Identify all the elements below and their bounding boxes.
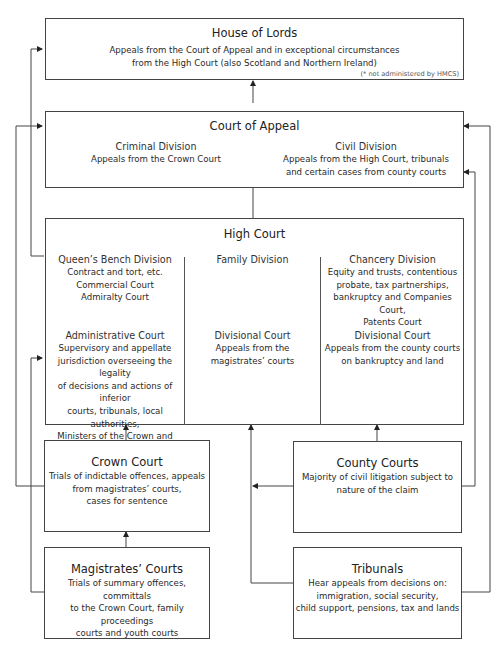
administrative-court-title: Administrative Court	[46, 329, 184, 342]
civil-division-desc-2: and certain cases from county courts	[276, 166, 456, 179]
high-court-title: High Court	[46, 227, 463, 242]
high-court-box: High Court Queen’s Bench Division Contra…	[45, 218, 464, 425]
chancery-division-title: Chancery Division	[321, 253, 464, 266]
administrative-desc-4: courts, tribunals, local authorities,	[46, 405, 184, 430]
chancery-division: Chancery Division Equity and trusts, con…	[321, 253, 464, 329]
family-divisional-court: Divisional Court Appeals from the magist…	[185, 329, 320, 367]
civil-division-desc-1: Appeals from the High Court, tribunals	[276, 153, 456, 166]
court-of-appeal-title: Court of Appeal	[46, 119, 463, 134]
queens-bench-division: Queen’s Bench Division Contract and tort…	[46, 253, 184, 304]
hmcs-note: (* not administered by HMCS)	[360, 70, 459, 78]
queens-bench-desc-1: Contract and tort, etc.	[46, 266, 184, 279]
family-divisional-title: Divisional Court	[185, 329, 320, 342]
criminal-division: Criminal Division Appeals from the Crown…	[56, 140, 256, 166]
tribunals-desc-1: Hear appeals from decisions on:	[294, 577, 461, 590]
family-division: Family Division	[185, 253, 320, 266]
house-of-lords-desc-1: Appeals from the Court of Appeal and in …	[46, 44, 463, 57]
family-divisional-desc-1: Appeals from the	[185, 342, 320, 355]
chancery-desc-3: bankruptcy and Companies Court,	[321, 291, 464, 316]
chancery-desc-2: probate, tax partnerships,	[321, 279, 464, 292]
family-divisional-desc-2: magistrates’ courts	[185, 355, 320, 368]
house-of-lords-desc-2: from the High Court (also Scotland and N…	[46, 57, 463, 70]
magistrates-desc-3: courts and youth courts	[45, 627, 209, 640]
county-courts-box: County Courts Majority of civil litigati…	[293, 441, 462, 533]
chancery-divisional-title: Divisional Court	[321, 329, 464, 342]
chancery-divisional-court: Divisional Court Appeals from the county…	[321, 329, 464, 367]
magistrates-courts-title: Magistrates’ Courts	[45, 562, 209, 577]
chancery-desc-1: Equity and trusts, contentious	[321, 266, 464, 279]
magistrates-desc-2: to the Crown Court, family proceedings	[45, 602, 209, 627]
county-courts-title: County Courts	[294, 456, 461, 471]
county-courts-desc-2: nature of the claim	[294, 484, 461, 497]
tribunals-desc-2: immigration, social security,	[294, 590, 461, 603]
tribunals-desc-3: child support, pensions, tax and lands	[294, 602, 461, 615]
administrative-desc-1: Supervisory and appellate	[46, 342, 184, 355]
criminal-division-title: Criminal Division	[56, 140, 256, 153]
queens-bench-desc-2: Commercial Court	[46, 279, 184, 292]
county-courts-desc-1: Majority of civil litigation subject to	[294, 471, 461, 484]
family-division-title: Family Division	[185, 253, 320, 266]
house-of-lords-box: House of Lords Appeals from the Court of…	[45, 18, 464, 80]
civil-division: Civil Division Appeals from the High Cou…	[276, 140, 456, 178]
house-of-lords-title: House of Lords	[46, 26, 463, 41]
crown-court-desc-2: from magistrates’ courts,	[45, 483, 209, 496]
queens-bench-desc-3: Admiralty Court	[46, 291, 184, 304]
chancery-divisional-desc-2: on bankruptcy and land	[321, 355, 464, 368]
court-of-appeal-box: Court of Appeal Criminal Division Appeal…	[45, 111, 464, 188]
administrative-desc-2: jurisdiction overseeing the legality	[46, 355, 184, 380]
queens-bench-title: Queen’s Bench Division	[46, 253, 184, 266]
crown-court-desc-1: Trials of indictable offences, appeals	[45, 470, 209, 483]
crown-court-box: Crown Court Trials of indictable offence…	[44, 440, 210, 532]
civil-division-title: Civil Division	[276, 140, 456, 153]
crown-court-title: Crown Court	[45, 455, 209, 470]
tribunals-title: Tribunals	[294, 562, 461, 577]
crown-court-desc-3: cases for sentence	[45, 495, 209, 508]
administrative-desc-3: of decisions and actions of inferior	[46, 380, 184, 405]
chancery-divisional-desc-1: Appeals from the county courts	[321, 342, 464, 355]
tribunals-box: Tribunals Hear appeals from decisions on…	[293, 547, 462, 639]
magistrates-courts-box: Magistrates’ Courts Trials of summary of…	[44, 547, 210, 639]
chancery-desc-4: Patents Court	[321, 316, 464, 329]
magistrates-desc-1: Trials of summary offences, committals	[45, 577, 209, 602]
criminal-division-desc: Appeals from the Crown Court	[56, 153, 256, 166]
